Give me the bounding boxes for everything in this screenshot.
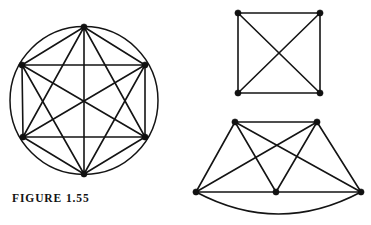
graph-vertex [19, 62, 25, 68]
complete-graph-k5 [193, 119, 364, 214]
graph-vertex [273, 189, 279, 195]
graph-vertex [235, 90, 241, 96]
graph-vertex [317, 90, 323, 96]
graph-edge-curved [196, 192, 361, 214]
graph-vertex [81, 24, 87, 30]
graph-edge [276, 122, 317, 192]
graph-vertex [193, 189, 199, 195]
graph-edge [22, 65, 23, 137]
graph-vertex [142, 134, 148, 140]
graph-edge [317, 122, 361, 192]
graph-vertex [81, 171, 87, 177]
figure-caption: FIGURE 1.55 [12, 193, 90, 205]
graphs-layer [10, 10, 364, 214]
figure-page: FIGURE 1.55 [0, 0, 371, 225]
graph-vertex [317, 10, 323, 16]
graph-vertex [358, 189, 364, 195]
graph-vertex [314, 119, 320, 125]
graph-vertex [232, 119, 238, 125]
complete-graph-k6-in-circle [10, 24, 158, 177]
graph-vertex [142, 62, 148, 68]
graph-vertex [235, 10, 241, 16]
graph-vertex [20, 134, 26, 140]
complete-graph-k4-square [235, 10, 323, 96]
